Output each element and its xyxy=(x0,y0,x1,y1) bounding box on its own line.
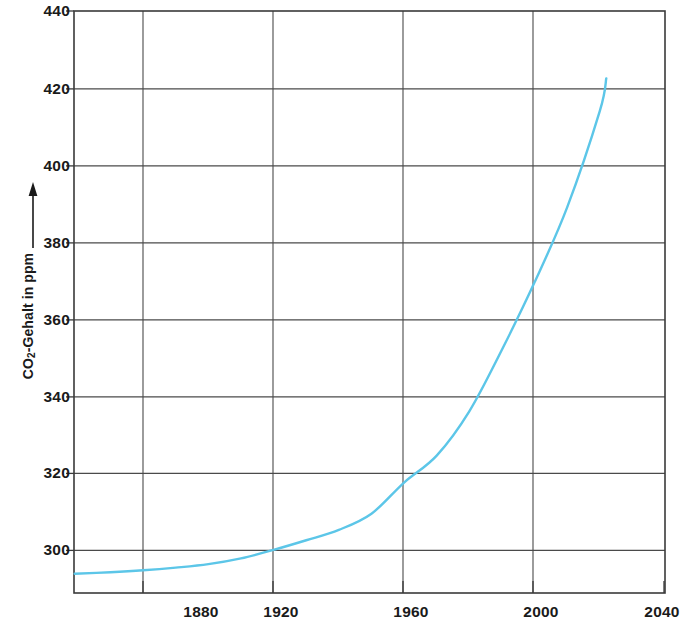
y-tick-label-440: 440 xyxy=(44,2,70,20)
vertical-gridlines xyxy=(143,11,533,593)
x-tick-label-1880: 1880 xyxy=(183,603,218,621)
y-tick-label-360: 360 xyxy=(44,311,70,329)
x-tick-label-2000: 2000 xyxy=(523,603,558,621)
plot-area xyxy=(0,0,684,630)
x-tick-label-1960: 1960 xyxy=(393,603,428,621)
plot-frame xyxy=(74,11,665,593)
x-tick-label-1920: 1920 xyxy=(263,603,298,621)
y-tick-label-320: 320 xyxy=(44,464,70,482)
x-axis-ticks xyxy=(143,581,664,593)
y-tick-label-400: 400 xyxy=(44,157,70,175)
x-tick-label-2040: 2040 xyxy=(644,603,679,621)
chart-figure: CO2-Gehalt in ppm xyxy=(0,0,684,630)
y-tick-label-380: 380 xyxy=(44,234,70,252)
horizontal-gridlines xyxy=(74,89,665,551)
data-series-co2-curve xyxy=(75,78,607,573)
y-tick-label-300: 300 xyxy=(44,541,70,559)
y-tick-label-420: 420 xyxy=(44,80,70,98)
y-tick-label-340: 340 xyxy=(44,388,70,406)
